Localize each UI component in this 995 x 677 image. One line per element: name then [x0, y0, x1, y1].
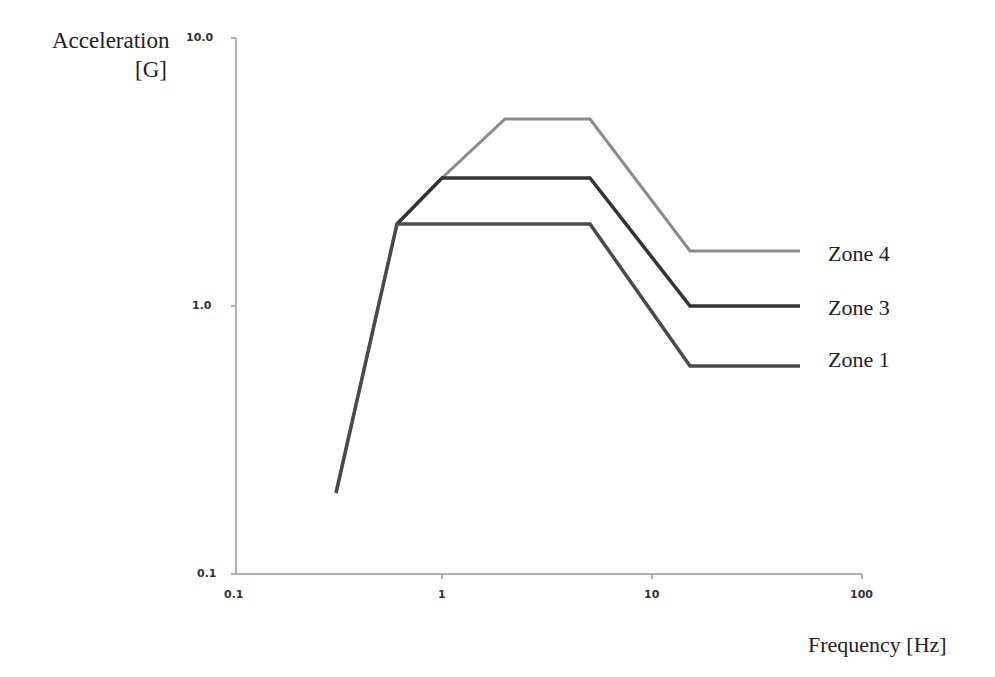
- x-axis-label: Frequency [Hz]: [808, 632, 947, 658]
- zone-1-line: [336, 224, 800, 493]
- zone-3-label: Zone 3: [828, 295, 890, 321]
- zone-3-line: [397, 178, 800, 306]
- chart-plot: [0, 0, 995, 677]
- zone-4-label: Zone 4: [828, 241, 890, 267]
- zone-1-label: Zone 1: [828, 347, 890, 373]
